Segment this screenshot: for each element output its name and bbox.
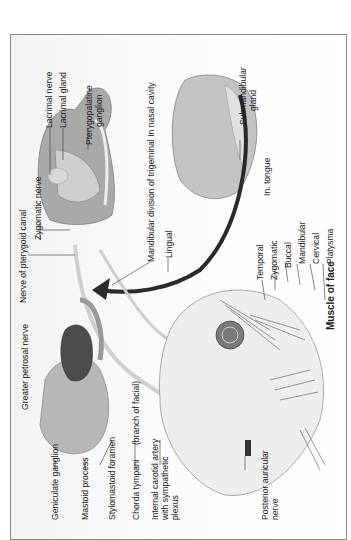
label-submandibular-line1: Submandibular (238, 67, 248, 125)
label-zygomatic-nerve: Zygomatic nerve (33, 176, 43, 240)
label-pterygopalatine-ganglion: Pterygopalatine ganglion (84, 85, 104, 145)
label-posterior-auricular-nerve: Posterior auricular nerve (260, 450, 280, 520)
label-temporal: Temporal (255, 245, 265, 280)
label-internal-carotid: Internal carotid artery with sympathetic… (150, 439, 180, 520)
label-submandibular-gland: Submandibular gland (238, 67, 258, 125)
label-lacrimal-gland: Lacrimal gland (58, 72, 68, 128)
label-zygomatic: Zygomatic (269, 240, 279, 280)
label-posterior-auricular-line2: nerve (270, 450, 280, 520)
label-posterior-auricular-line1: Posterior auricular (260, 450, 270, 520)
label-chorda-tympani: Chorda tympani (131, 459, 141, 520)
label-lacrimal-nerve: Lacrimal nerve (44, 72, 54, 128)
label-cervical: Cervical (311, 233, 321, 264)
label-platysma: Platysma (325, 229, 335, 264)
figure-title-muscle-of-face: Muscle of face (326, 261, 336, 330)
label-in-tongue: In. tongue (262, 158, 272, 196)
label-internal-carotid-line2: with sympathetic (160, 439, 170, 520)
orbicularis-oculi-shape (216, 321, 244, 349)
label-greater-petrosal-nerve: Greater petrosal nerve (20, 324, 30, 410)
label-internal-carotid-line3: plexus (170, 439, 180, 520)
geniculate-ganglion-shape (61, 325, 93, 381)
arrow-head (92, 278, 110, 300)
label-buccal: Buccal (283, 242, 293, 268)
label-branch-of-facial: (branch of facial) (131, 381, 141, 445)
facial-nerve-path (100, 250, 170, 340)
label-internal-carotid-line1: Internal carotid artery (150, 439, 160, 520)
label-geniculate-ganglion: Geniculate ganglion (50, 444, 60, 520)
posterior-auricular-marker (245, 440, 251, 456)
label-pterygopalatine-line1: Pterygopalatine (84, 85, 94, 145)
label-nerve-of-pterygoid-canal: Nerve of pterygoid canal (18, 210, 28, 303)
label-submandibular-line2: gland (248, 67, 258, 125)
face-outline (159, 290, 323, 496)
label-pterygopalatine-line2: ganglion (94, 85, 104, 145)
label-mastoid-process: Mastoid process (80, 457, 90, 520)
label-lingual: Lingual (164, 230, 174, 258)
lacrimal-gland-shape (48, 168, 68, 184)
label-mandibular: Mandibular (297, 221, 307, 264)
label-mandibular-division: Mandibular division of trigeminal In nas… (146, 82, 156, 262)
label-stylomastoid-foramen: Stylomastoid foramen (107, 437, 117, 520)
